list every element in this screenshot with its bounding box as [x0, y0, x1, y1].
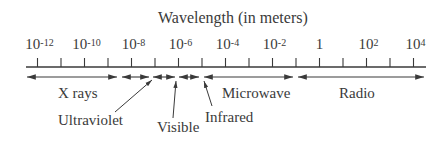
band-label-xrays: X rays — [58, 86, 98, 101]
band-label-visible: Visible — [157, 120, 199, 135]
band-label-ultraviolet: Ultraviolet — [58, 113, 123, 128]
infrared-pointer-arrow — [204, 81, 212, 106]
tick-label: 1 — [316, 37, 324, 52]
band-label-radio: Radio — [339, 86, 375, 101]
tick-label: 10-2 — [263, 37, 286, 52]
tick-label: 10-6 — [169, 37, 192, 52]
tick-label: 10-8 — [122, 37, 145, 52]
axis-title: Wavelength (in meters) — [158, 10, 308, 25]
tick-label: 10-10 — [72, 37, 100, 52]
band-label-microwave: Microwave — [222, 86, 290, 101]
tick-label: 104 — [406, 37, 426, 52]
tick-label: 10-12 — [25, 37, 53, 52]
em-spectrum-diagram: Wavelength (in meters) 10-1210-1010-810-… — [0, 0, 448, 142]
tick-label: 10-4 — [216, 37, 239, 52]
ultraviolet-pointer-arrow — [115, 80, 152, 112]
axis-ticks — [38, 58, 414, 67]
tick-label: 102 — [359, 37, 379, 52]
band-label-infrared: Infrared — [205, 110, 253, 125]
visible-pointer-arrow — [173, 81, 176, 118]
